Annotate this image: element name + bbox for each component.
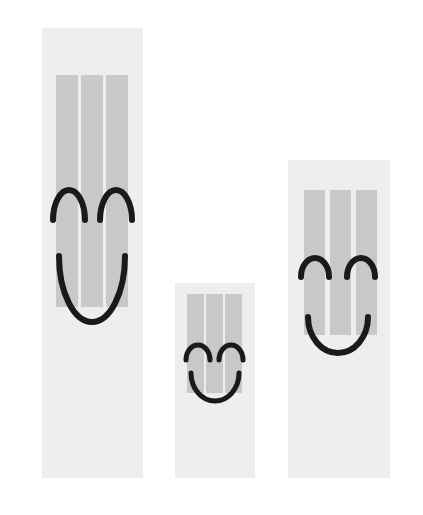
- illustration-canvas: [0, 0, 423, 515]
- right-eye-arc-icon: [100, 190, 132, 220]
- right-eye-arc-icon: [347, 258, 375, 277]
- smiley-face-icon: [42, 28, 143, 478]
- left-eye-arc-icon: [186, 345, 210, 360]
- right-eye-arc-icon: [219, 345, 243, 360]
- medium-striped-smiley-panel: [288, 160, 390, 478]
- left-eye-arc-icon: [301, 258, 329, 277]
- tall-striped-smiley-panel: [42, 28, 143, 478]
- smiley-face-icon: [175, 283, 255, 478]
- mouth-arc-icon: [308, 317, 368, 353]
- short-striped-smiley-panel: [175, 283, 255, 478]
- mouth-arc-icon: [191, 373, 239, 401]
- left-eye-arc-icon: [53, 190, 85, 220]
- smiley-face-icon: [288, 160, 390, 478]
- mouth-arc-icon: [59, 256, 125, 322]
